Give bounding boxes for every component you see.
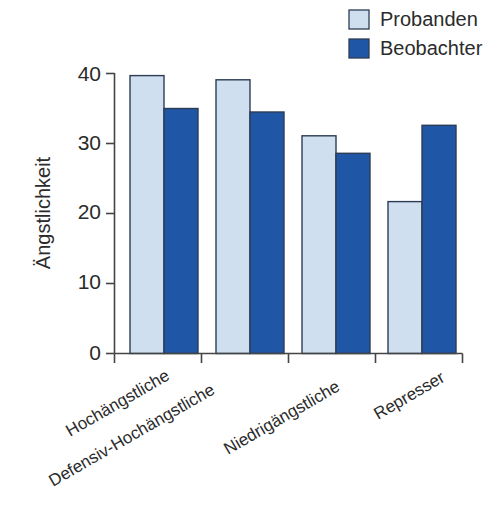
- y-tick-label-20: 20: [78, 200, 101, 223]
- y-axis: [106, 73, 115, 354]
- bar-chart: Probanden Beobachter Ängstlichkeit 40 30…: [0, 0, 500, 519]
- bar-group-represser: [388, 125, 456, 353]
- bar-group-niedrigaengstliche: [302, 136, 370, 354]
- y-axis-tick-labels: 40 30 20 10 0: [78, 62, 101, 364]
- x-category-label-represser: Represser: [371, 368, 449, 424]
- y-tick-label-40: 40: [78, 62, 101, 85]
- y-tick-label-10: 10: [78, 270, 101, 293]
- bar-probanden-hochaengstliche: [130, 76, 164, 354]
- bar-group-hochaengstliche: [130, 76, 198, 354]
- bar-probanden-defensiv-hochaengstliche: [216, 80, 250, 354]
- legend-swatch-probanden: [349, 10, 369, 29]
- chart-canvas: Probanden Beobachter Ängstlichkeit 40 30…: [0, 0, 500, 519]
- bar-group-defensiv-hochaengstliche: [216, 80, 284, 354]
- x-axis-category-labels: Hochängstliche Defensiv-Hochängstliche N…: [46, 366, 449, 491]
- bar-beobachter-defensiv-hochaengstliche: [250, 112, 284, 354]
- legend-label-beobachter: Beobachter: [380, 37, 483, 59]
- y-axis-title: Ängstlichkeit: [32, 156, 54, 269]
- legend-swatch-beobachter: [349, 39, 369, 58]
- x-axis: [115, 354, 463, 364]
- bar-probanden-represser: [388, 202, 422, 354]
- bar-beobachter-niedrigaengstliche: [336, 153, 370, 353]
- y-axis-title-group: Ängstlichkeit: [32, 156, 54, 269]
- chart-legend: Probanden Beobachter: [349, 8, 483, 59]
- legend-label-probanden: Probanden: [380, 8, 478, 30]
- bar-probanden-niedrigaengstliche: [302, 136, 336, 354]
- bar-beobachter-represser: [422, 125, 456, 353]
- bars: [130, 76, 456, 354]
- bar-beobachter-hochaengstliche: [164, 109, 198, 354]
- y-tick-label-0: 0: [89, 341, 101, 364]
- y-tick-label-30: 30: [78, 131, 101, 154]
- x-category-label-niedrigaengstliche: Niedrigängstliche: [221, 377, 343, 459]
